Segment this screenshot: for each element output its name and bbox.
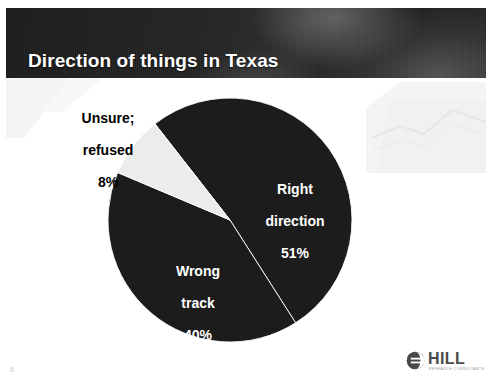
slide-canvas: Direction of things in Texas Right direc… (0, 0, 486, 386)
pie-label-unsure-refused-line2: refused (56, 143, 160, 159)
pie-label-wrong-track: Wrong track 40% (148, 248, 248, 360)
pie-label-unsure-refused-line1: Unsure; (56, 111, 160, 127)
pie-label-right-direction: Right direction 51% (243, 166, 347, 278)
background-watermark-right (366, 78, 486, 173)
pie-label-right-direction-line1: Right (243, 182, 347, 198)
pie-label-wrong-track-value: 40% (148, 328, 248, 344)
pie-label-wrong-track-line2: track (148, 296, 248, 312)
pie-label-right-direction-line2: direction (243, 214, 347, 230)
slide-header-band: Direction of things in Texas (6, 8, 486, 78)
page-number: 6 (10, 366, 14, 373)
page-title: Direction of things in Texas (28, 50, 279, 72)
globe-icon (406, 351, 425, 370)
pie-label-unsure-refused: Unsure; refused 8% (56, 95, 160, 207)
pie-label-unsure-refused-value: 8% (56, 175, 160, 191)
pie-label-right-direction-value: 51% (243, 246, 347, 262)
hill-logo: HILL RESEARCH CONSULTANTS (406, 350, 476, 374)
logo-wordmark: HILL (428, 350, 465, 368)
logo-tagline: RESEARCH CONSULTANTS (429, 367, 485, 371)
pie-label-wrong-track-line1: Wrong (148, 264, 248, 280)
